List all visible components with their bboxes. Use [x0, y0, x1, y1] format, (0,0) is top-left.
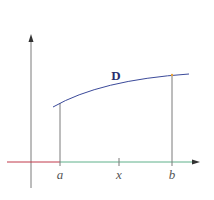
x-label-b: b	[169, 168, 176, 181]
y-axis-arrow-icon	[29, 34, 34, 42]
x-label-x: x	[116, 168, 122, 181]
x-axis-arrow-icon	[192, 160, 200, 165]
area-under-curve-diagram	[0, 0, 214, 200]
curve-label-d: D	[111, 69, 120, 82]
curve-highlight-point	[171, 74, 173, 76]
curve-d	[53, 74, 189, 107]
x-label-a: a	[57, 168, 64, 181]
